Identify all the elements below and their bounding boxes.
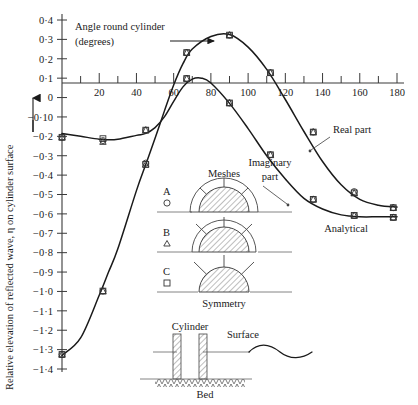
mesh-legend-title: Meshes [208, 168, 240, 179]
y-tick-label: 0 [48, 92, 53, 103]
imaginary-part-label-line1: Imaginary [248, 157, 292, 168]
triangle-marker-icon [164, 241, 170, 247]
cylinder-inset: Cylinder Surface Bed [140, 321, 312, 400]
mesh-legend: Meshes A B [157, 168, 292, 309]
y-tick-label: −0·8 [33, 247, 53, 258]
cylinder-inset-label: Cylinder [172, 321, 209, 332]
circle-marker-icon [164, 200, 170, 206]
y-axis-title: Relative elevation of reflected wave, η … [4, 98, 33, 390]
y-tick-label: −1·3 [33, 344, 53, 355]
y-tick-label: −1·2 [33, 325, 53, 336]
analytical-label: Analytical [324, 223, 368, 234]
x-axis-title: Angle round cylinder (degrees) [75, 21, 214, 48]
legend-item-B[interactable]: B [157, 217, 292, 252]
y-tick-label: −0·5 [33, 189, 53, 200]
legend-item-A-label: A [163, 186, 171, 197]
x-tick-label: 140 [315, 87, 331, 98]
surface-inset-label: Surface [227, 329, 259, 340]
x-tick-label: 80 [206, 87, 217, 98]
x-axis-ticks: 20406080100120140160180 [81, 73, 405, 98]
y-tick-label: −0·3 [33, 151, 53, 162]
x-tick-label: 160 [352, 87, 368, 98]
square-marker-icon [164, 280, 170, 286]
y-tick-label: −0·7 [33, 228, 53, 239]
y-tick-label: −0·9 [33, 267, 53, 278]
y-tick-label: 0·4 [39, 15, 54, 26]
figure-container: Relative elevation of reflected wave, η … [0, 0, 418, 405]
x-tick-label: 40 [131, 87, 142, 98]
y-tick-label: 0·2 [39, 54, 53, 65]
x-tick-label: 20 [94, 87, 105, 98]
bed-inset-label: Bed [197, 389, 215, 400]
legend-item-A[interactable]: A [157, 178, 292, 212]
x-tick-label: 180 [389, 87, 405, 98]
x-axis-title-line1: Angle round cylinder [75, 21, 165, 32]
legend-item-C[interactable]: C [157, 255, 292, 292]
y-tick-label: 0·3 [39, 34, 53, 45]
y-tick-label: −1·4 [33, 364, 54, 375]
y-tick-label: −0·10 [28, 112, 53, 123]
legend-item-C-label: C [163, 266, 170, 277]
y-tick-label: 0·1 [39, 73, 53, 84]
x-tick-label: 120 [277, 87, 293, 98]
y-axis-title-text: Relative elevation of reflected wave, η … [4, 144, 15, 390]
x-axis-title-line2: (degrees) [75, 36, 115, 48]
legend-item-B-label: B [163, 227, 170, 238]
imaginary-part-label-line2: part [262, 171, 278, 182]
y-tick-label: −0·2 [33, 131, 53, 142]
y-tick-label: −1·0 [33, 286, 53, 297]
real-part-label: Real part [333, 124, 371, 135]
y-tick-label: −0·4 [33, 170, 54, 181]
mesh-legend-footer: Symmetry [202, 298, 246, 309]
chart-svg: Relative elevation of reflected wave, η … [0, 0, 418, 405]
y-axis-ticks: 0·40·30·20·10−0·10−0·2−0·3−0·4−0·5−0·6−0… [28, 15, 67, 375]
y-tick-label: −1·1 [33, 306, 53, 317]
y-tick-label: −0·6 [33, 209, 53, 220]
x-tick-label: 100 [240, 87, 256, 98]
